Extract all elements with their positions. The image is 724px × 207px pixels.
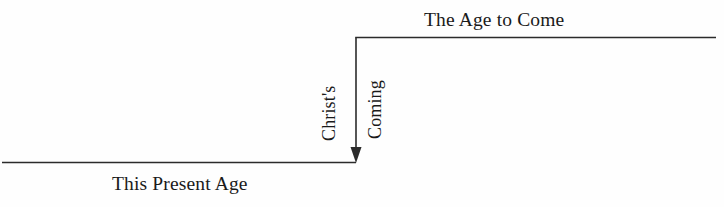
downward-arrowhead (351, 147, 362, 163)
present-age-label: This Present Age (112, 174, 248, 194)
timeline-graphic (0, 0, 724, 207)
christs-label: Christ's (320, 86, 338, 141)
coming-label: Coming (366, 80, 384, 139)
two-ages-diagram: This Present Age The Age to Come Christ'… (0, 0, 724, 207)
age-to-come-label: The Age to Come (424, 10, 564, 30)
